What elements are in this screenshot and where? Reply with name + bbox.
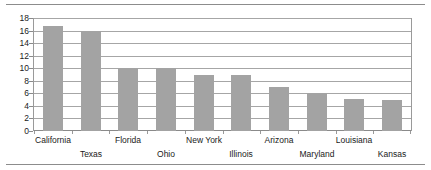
bar-series — [34, 18, 411, 131]
bar — [81, 31, 101, 131]
y-axis-tick-label: 18 — [3, 14, 29, 23]
bar — [382, 100, 402, 131]
x-axis-category-label: Kansas — [378, 150, 406, 159]
x-axis-category-label: New York — [186, 136, 222, 145]
bar — [156, 68, 176, 131]
x-axis-category-label: Florida — [115, 136, 141, 145]
x-axis-category-label: Texas — [80, 150, 102, 159]
bar — [231, 75, 251, 131]
y-axis-tick-label: 12 — [3, 52, 29, 61]
x-axis-category-label: Ohio — [157, 150, 175, 159]
x-axis-category-label: Maryland — [300, 150, 335, 159]
y-axis-tick-label: 6 — [3, 89, 29, 98]
y-axis-tick-label: 2 — [3, 114, 29, 123]
y-axis-tick-labels: 024681012141618 — [0, 18, 29, 131]
x-axis-category-label: California — [35, 136, 71, 145]
y-axis-tick-label: 4 — [3, 102, 29, 111]
bar-chart: 024681012141618 CaliforniaTexasFloridaOh… — [0, 12, 431, 157]
bar — [344, 99, 364, 131]
y-axis-tick-label: 16 — [3, 27, 29, 36]
bar — [118, 68, 138, 131]
x-axis-category-label: Arizona — [265, 136, 294, 145]
y-axis-tick-label: 10 — [3, 64, 29, 73]
y-axis-tick-label: 0 — [3, 127, 29, 136]
y-axis-tick-label: 8 — [3, 77, 29, 86]
x-axis-category-label: Illinois — [229, 150, 253, 159]
bar — [43, 26, 63, 131]
x-axis-category-labels: CaliforniaTexasFloridaOhioNew YorkIllino… — [34, 133, 411, 167]
bar — [307, 93, 327, 131]
x-axis-category-label: Louisiana — [336, 136, 372, 145]
y-axis-tick-mark — [29, 131, 33, 132]
top-divider-rule — [6, 4, 425, 5]
bar — [269, 87, 289, 131]
y-axis-tick-label: 14 — [3, 39, 29, 48]
bar — [194, 75, 214, 131]
figure-container: 024681012141618 CaliforniaTexasFloridaOh… — [0, 0, 431, 170]
